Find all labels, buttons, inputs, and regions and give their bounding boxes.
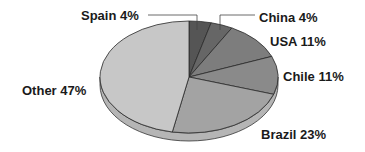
label-spain: Spain 4%	[81, 9, 139, 22]
label-china: China 4%	[259, 11, 318, 24]
label-brazil: Brazil 23%	[261, 128, 326, 141]
slice-other	[100, 21, 189, 132]
label-other: Other 47%	[22, 84, 86, 97]
label-chile: Chile 11%	[283, 70, 344, 83]
label-usa: USA 11%	[270, 35, 326, 48]
